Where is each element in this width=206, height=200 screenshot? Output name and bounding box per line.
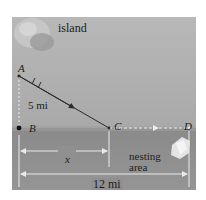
point-a-label: A bbox=[18, 63, 25, 74]
diagram-frame: island A B C D 5 mi x 12 mi nesting area bbox=[12, 17, 196, 190]
island-label: island bbox=[58, 22, 87, 34]
distance-x-label: x bbox=[65, 154, 70, 165]
distance-ab-label: 5 mi bbox=[28, 100, 48, 111]
point-c bbox=[108, 127, 111, 130]
nesting-area-line2: area bbox=[129, 162, 161, 173]
point-a bbox=[17, 74, 20, 77]
point-d-label: D bbox=[184, 121, 192, 132]
nesting-area-label: nesting area bbox=[129, 151, 161, 173]
point-c-label: C bbox=[114, 121, 121, 132]
point-b bbox=[17, 126, 22, 131]
point-b-label: B bbox=[29, 123, 36, 134]
distance-total-label: 12 mi bbox=[91, 178, 123, 190]
